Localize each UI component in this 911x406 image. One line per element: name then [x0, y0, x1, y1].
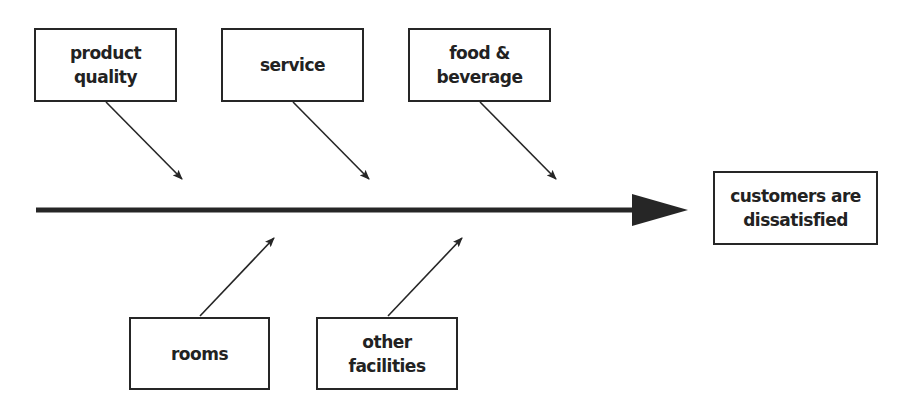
cause-box-service: service [221, 28, 364, 102]
arrow-service [293, 102, 369, 179]
arrow-product-quality [106, 102, 182, 179]
cause-label: other facilities [348, 330, 425, 378]
cause-label: service [260, 53, 325, 77]
main-spine-arrow [36, 194, 688, 226]
cause-box-food-beverage: food & beverage [408, 28, 551, 102]
effect-label: customers are dissatisfied [730, 184, 861, 232]
arrow-food-beverage [480, 102, 556, 179]
cause-box-other-facilities: other facilities [316, 317, 458, 390]
arrow-other-facilities [388, 238, 462, 316]
cause-box-product-quality: product quality [34, 28, 177, 102]
cause-label: product quality [70, 41, 141, 89]
cause-label: rooms [171, 342, 228, 366]
effect-box-customers-dissatisfied: customers are dissatisfied [713, 171, 878, 245]
arrow-rooms [200, 238, 274, 316]
cause-box-rooms: rooms [129, 317, 270, 390]
cause-label: food & beverage [437, 41, 523, 89]
